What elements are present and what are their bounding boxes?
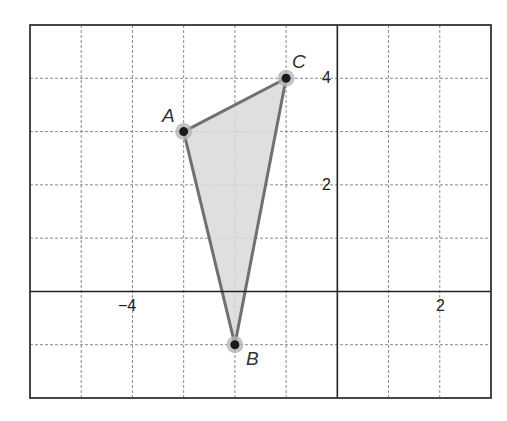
x-tick-label-2: 2: [436, 298, 445, 314]
triangle-abc: [184, 78, 286, 344]
label-point-c: C: [292, 52, 306, 71]
x-tick-label-neg4: −4: [118, 298, 136, 314]
label-point-a: A: [162, 106, 175, 125]
y-tick-label-2: 2: [322, 177, 331, 193]
y-tick-label-4: 4: [322, 70, 331, 86]
label-point-b: B: [246, 349, 259, 368]
point-a: [175, 123, 192, 140]
point-b: [226, 336, 243, 353]
point-c: [278, 70, 295, 87]
